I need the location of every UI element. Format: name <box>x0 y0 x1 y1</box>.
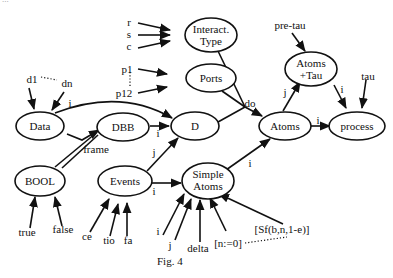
figure-diagram: Interact. Type Ports D Data DBB BOOL Eve… <box>0 0 393 278</box>
node-label: process <box>341 120 374 132</box>
node-label: D <box>191 120 199 132</box>
node-atoms-tau: Atoms +Tau <box>285 52 337 86</box>
edge-label-events-simple: i <box>152 185 155 197</box>
input-r: r <box>127 16 131 28</box>
node-bool: BOOL <box>15 166 65 196</box>
edge-false-bool <box>55 197 62 226</box>
edge-label-data-d: i <box>68 97 71 109</box>
input-tau: tau <box>361 70 375 82</box>
edge-sf-simple <box>219 194 283 224</box>
node-label: Interact. <box>193 23 230 35</box>
input-p12: p12 <box>116 87 133 99</box>
edge-label-atomstau-process: i <box>340 83 343 95</box>
node-label: Type <box>200 35 222 47</box>
input-fa: fa <box>124 234 133 246</box>
input-dn: dn <box>62 77 74 89</box>
input-tio: tio <box>103 234 115 246</box>
node-label: BOOL <box>25 175 55 187</box>
edge-i-simple <box>163 194 184 235</box>
input-sf: [Sf(b,n,1-e)] <box>255 223 310 236</box>
node-label: Atoms <box>270 120 299 132</box>
input-true: true <box>18 226 35 238</box>
input-i: i <box>156 225 159 237</box>
dots-n-sf <box>245 237 287 243</box>
node-label: DBB <box>112 121 135 133</box>
edge-d1-data <box>29 88 34 109</box>
node-events: Events <box>98 166 152 196</box>
node-label: Atoms <box>193 180 222 192</box>
node-label: +Tau <box>300 69 323 81</box>
edge-label-atoms-process: i <box>316 114 319 126</box>
input-j: j <box>167 239 171 251</box>
edge-p1-ports <box>138 69 167 74</box>
node-interact-type: Interact. Type <box>185 18 237 52</box>
edge-c-interact <box>138 41 170 48</box>
edge-label-events-d: j <box>151 146 155 158</box>
input-false: false <box>53 223 74 235</box>
edge-ce-events <box>90 199 109 232</box>
edge-tau-process <box>362 80 366 108</box>
node-label: Atoms <box>296 57 325 69</box>
edge-tio-events <box>110 204 118 236</box>
node-label: Simple <box>192 168 223 180</box>
dots-d1-dn <box>41 77 57 80</box>
edge-label-atoms-atomstau: j <box>282 86 286 98</box>
input-delta: delta <box>187 242 208 254</box>
edge-label-dbb-d: i <box>156 127 159 139</box>
edge-label-frame: frame <box>83 143 109 155</box>
input-n-assign: [n:=0] <box>214 237 242 249</box>
edge-true-bool <box>30 197 35 228</box>
node-process: process <box>329 112 385 140</box>
edge-pretau-atomstau <box>292 33 305 51</box>
node-ports: Ports <box>186 64 236 92</box>
input-c: c <box>127 40 132 52</box>
input-s: s <box>127 28 131 40</box>
input-p1: p1 <box>122 63 133 75</box>
edge-d-do <box>218 107 245 122</box>
node-simple-atoms: Simple Atoms <box>182 163 234 199</box>
node-atoms: Atoms <box>259 112 311 140</box>
node-data: Data <box>16 112 64 140</box>
edge-dn-data <box>52 92 64 110</box>
edge-r-interact <box>138 23 170 30</box>
node-d: D <box>171 112 219 140</box>
input-pre-tau: pre-tau <box>274 19 306 31</box>
node-dbb: DBB <box>97 113 149 141</box>
edge-p12-ports <box>138 87 167 93</box>
edge-label-simple-atoms: i <box>248 157 251 169</box>
edge-label-do: do <box>245 97 257 109</box>
node-label: Data <box>30 120 51 132</box>
node-label: Events <box>110 175 140 187</box>
input-ce: ce <box>82 230 92 242</box>
figure-caption: Fig. 4 <box>157 255 183 267</box>
edge-n-simple <box>210 198 226 231</box>
node-label: Ports <box>200 72 223 84</box>
input-d1: d1 <box>27 73 38 85</box>
